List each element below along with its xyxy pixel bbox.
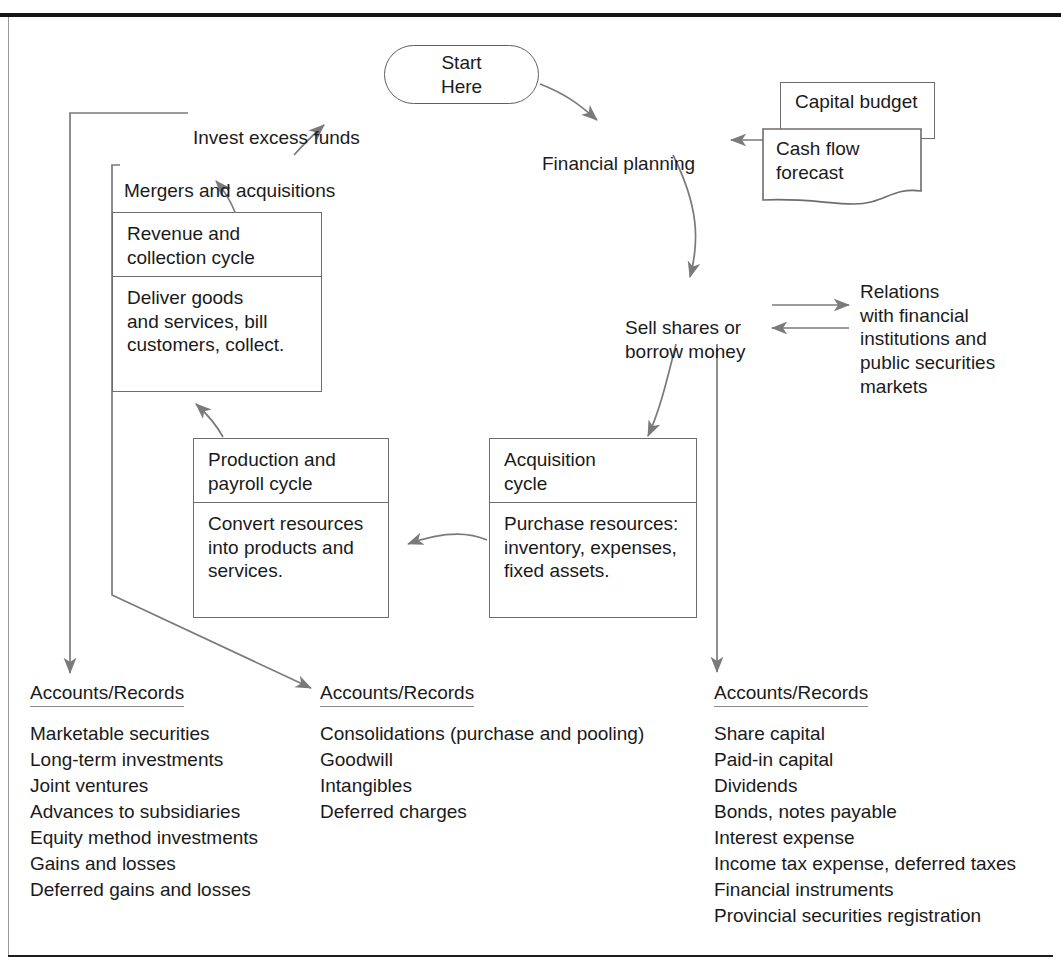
acquisition-cycle-body-label: Purchase resources: inventory, expenses,… xyxy=(504,512,696,583)
acquisition-cycle-header-label: Acquisition cycle xyxy=(504,448,696,495)
accounts-records-financing-list: Share capital Paid-in capital Dividends … xyxy=(714,721,1054,929)
list-item: Financial instruments xyxy=(714,877,1054,903)
acquisition-cycle-node[interactable]: Acquisition cycle Purchase resources: in… xyxy=(489,438,697,618)
revenue-collection-cycle-body-label: Deliver goods and services, bill custome… xyxy=(127,286,321,357)
start-here-label: Start Here xyxy=(441,51,482,99)
acquisition-cycle-header: Acquisition cycle xyxy=(490,439,696,503)
accounts-records-consolidations-list: Consolidations (purchase and pooling) Go… xyxy=(320,721,700,825)
financial-planning-node[interactable]: Financial planning xyxy=(542,128,695,176)
accounts-records-financing: Accounts/Records Share capital Paid-in c… xyxy=(714,682,1054,929)
list-item: Interest expense xyxy=(714,825,1054,851)
list-item: Bonds, notes payable xyxy=(714,799,1054,825)
accounts-records-investments-list: Marketable securities Long-term investme… xyxy=(30,721,320,903)
list-item: Dividends xyxy=(714,773,1054,799)
production-payroll-cycle-node[interactable]: Production and payroll cycle Convert res… xyxy=(193,438,389,618)
start-here-node[interactable]: Start Here xyxy=(384,45,539,104)
accounts-records-consolidations-heading: Accounts/Records xyxy=(320,682,474,707)
relations-label: Relations with financial institutions an… xyxy=(860,281,995,397)
list-item: Share capital xyxy=(714,721,1054,747)
revenue-collection-cycle-header-label: Revenue and collection cycle xyxy=(127,222,321,269)
list-item: Gains and losses xyxy=(30,851,320,877)
accounts-records-consolidations: Accounts/Records Consolidations (purchas… xyxy=(320,682,700,825)
diagram-canvas: Start Here Financial planning Capital bu… xyxy=(0,0,1061,974)
arrow-production-to-revenue-cycle xyxy=(196,404,223,437)
sell-shares-or-borrow-money-label: Sell shares or borrow money xyxy=(625,317,745,362)
production-payroll-cycle-header: Production and payroll cycle xyxy=(194,439,388,503)
invest-excess-funds-node[interactable]: Invest excess funds xyxy=(193,102,360,150)
arrow-start-to-financial-planning xyxy=(540,84,597,120)
list-item: Provincial securities registration xyxy=(714,903,1054,929)
relations-with-financial-institutions-node[interactable]: Relations with financial institutions an… xyxy=(860,256,995,399)
list-item: Consolidations (purchase and pooling) xyxy=(320,721,700,747)
invest-excess-funds-label: Invest excess funds xyxy=(193,127,360,148)
acquisition-cycle-body: Purchase resources: inventory, expenses,… xyxy=(490,503,696,592)
cash-flow-forecast-label: Cash flow forecast xyxy=(776,137,859,184)
mergers-and-acquisitions-label: Mergers and acquisitions xyxy=(124,180,335,201)
accounts-records-investments-heading: Accounts/Records xyxy=(30,682,184,707)
list-item: Income tax expense, deferred taxes xyxy=(714,851,1054,877)
list-item: Long-term investments xyxy=(30,747,320,773)
capital-budget-label: Capital budget xyxy=(781,83,934,113)
accounts-records-investments: Accounts/Records Marketable securities L… xyxy=(30,682,320,903)
list-item: Equity method investments xyxy=(30,825,320,851)
financial-planning-label: Financial planning xyxy=(542,153,695,174)
sell-shares-or-borrow-money-node[interactable]: Sell shares or borrow money xyxy=(625,292,745,363)
production-payroll-cycle-body: Convert resources into products and serv… xyxy=(194,503,388,592)
list-item: Deferred gains and losses xyxy=(30,877,320,903)
mergers-and-acquisitions-node[interactable]: Mergers and acquisitions xyxy=(124,155,335,203)
list-item: Intangibles xyxy=(320,773,700,799)
list-item: Paid-in capital xyxy=(714,747,1054,773)
revenue-collection-cycle-header: Revenue and collection cycle xyxy=(113,213,321,277)
production-payroll-cycle-body-label: Convert resources into products and serv… xyxy=(208,512,388,583)
revenue-collection-cycle-body: Deliver goods and services, bill custome… xyxy=(113,277,321,366)
revenue-collection-cycle-node[interactable]: Revenue and collection cycle Deliver goo… xyxy=(112,212,322,392)
list-item: Goodwill xyxy=(320,747,700,773)
list-item: Joint ventures xyxy=(30,773,320,799)
accounts-records-financing-heading: Accounts/Records xyxy=(714,682,868,707)
list-item: Deferred charges xyxy=(320,799,700,825)
production-payroll-cycle-header-label: Production and payroll cycle xyxy=(208,448,388,495)
cash-flow-forecast-document[interactable]: Cash flow forecast xyxy=(762,128,922,208)
list-item: Marketable securities xyxy=(30,721,320,747)
arrow-acquisition-to-production-cycle xyxy=(408,534,487,544)
list-item: Advances to subsidiaries xyxy=(30,799,320,825)
